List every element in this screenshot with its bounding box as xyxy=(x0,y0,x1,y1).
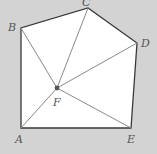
pentagon-abcde xyxy=(21,8,137,128)
label-c: C xyxy=(82,0,91,9)
pentagon-diagram: A B C D E F xyxy=(0,0,157,154)
label-a: A xyxy=(14,133,23,146)
label-f: F xyxy=(52,96,61,109)
label-d: D xyxy=(140,37,150,50)
label-b: B xyxy=(7,21,16,34)
label-e: E xyxy=(126,133,135,146)
point-f xyxy=(55,86,60,91)
diagram-canvas: A B C D E F xyxy=(0,0,157,154)
